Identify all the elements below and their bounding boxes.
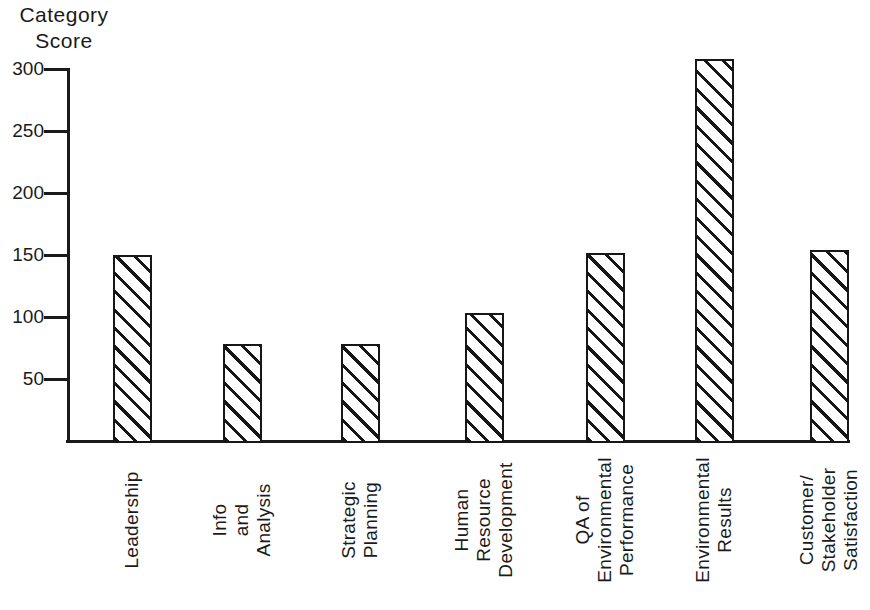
y-tick-200 bbox=[44, 192, 67, 195]
y-axis-title-line-1: Category bbox=[14, 2, 114, 28]
x-axis-label-line: Performance bbox=[616, 435, 638, 605]
x-axis-label-line: Resource bbox=[473, 435, 495, 605]
x-axis-label-line: and bbox=[231, 435, 253, 605]
x-axis-label-leadership: Leadership bbox=[121, 435, 143, 605]
bar-strategic-planning bbox=[341, 344, 380, 443]
x-axis-label-environmental-results: EnvironmentalResults bbox=[692, 435, 736, 605]
x-axis-label-line: Satisfaction bbox=[840, 435, 862, 605]
bar-customer-stakeholder-satisfaction bbox=[810, 250, 849, 443]
x-axis-label-customer-stakeholder-satisfaction: Customer/StakeholderSatisfaction bbox=[796, 435, 862, 605]
x-axis-label-line: QA of bbox=[572, 435, 594, 605]
x-axis-label-info-and-analysis: InfoandAnalysis bbox=[209, 435, 275, 605]
bar-info-and-analysis bbox=[223, 344, 262, 443]
x-axis-label-line: Environmental bbox=[692, 435, 714, 605]
y-tick-250 bbox=[44, 130, 67, 133]
x-axis-label-line: Strategic bbox=[338, 435, 360, 605]
y-axis-line bbox=[67, 68, 70, 443]
x-axis-label-qa-of-environmental-performance: QA ofEnvironmentalPerformance bbox=[572, 435, 638, 605]
y-tick-label-100: 100 bbox=[0, 306, 44, 328]
x-axis-label-line: Planning bbox=[360, 435, 382, 605]
y-tick-label-250: 250 bbox=[0, 120, 44, 142]
y-tick-label-150: 150 bbox=[0, 244, 44, 266]
y-tick-300 bbox=[44, 68, 67, 71]
y-tick-label-300: 300 bbox=[0, 58, 44, 80]
bar-leadership bbox=[113, 255, 152, 443]
x-axis-label-strategic-planning: StrategicPlanning bbox=[338, 435, 382, 605]
y-tick-label-50: 50 bbox=[0, 368, 44, 390]
x-axis-label-line: Human bbox=[451, 435, 473, 605]
bar-qa-of-environmental-performance bbox=[586, 253, 625, 443]
x-axis-label-line: Environmental bbox=[594, 435, 616, 605]
y-axis-title: Category Score bbox=[14, 2, 114, 54]
x-axis-label-line: Stakeholder bbox=[818, 435, 840, 605]
x-axis-label-line: Info bbox=[209, 435, 231, 605]
x-axis-label-human-resource-development: HumanResourceDevelopment bbox=[451, 435, 517, 605]
x-axis-label-line: Leadership bbox=[121, 435, 143, 605]
bar-human-resource-development bbox=[465, 313, 504, 443]
y-tick-label-200: 200 bbox=[0, 182, 44, 204]
x-axis-label-line: Customer/ bbox=[796, 435, 818, 605]
y-tick-50 bbox=[44, 378, 67, 381]
x-axis-label-line: Analysis bbox=[253, 435, 275, 605]
x-axis-label-line: Results bbox=[714, 435, 736, 605]
y-axis-title-line-2: Score bbox=[14, 28, 114, 54]
bar-chart: Category Score 50100150200250300 Leaders… bbox=[0, 0, 870, 610]
bar-environmental-results bbox=[695, 59, 734, 443]
y-tick-100 bbox=[44, 316, 67, 319]
y-tick-150 bbox=[44, 254, 67, 257]
x-axis-label-line: Development bbox=[495, 435, 517, 605]
